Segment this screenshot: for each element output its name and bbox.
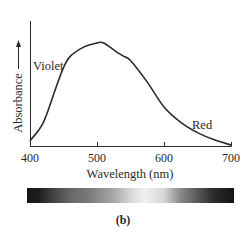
spectrum-color-bar [27, 188, 234, 203]
x-axis-label: Wavelength (nm) [87, 167, 174, 181]
violet-label: Violet [33, 59, 64, 73]
red-label: Red [192, 118, 213, 132]
x-tick-label-500: 500 [88, 151, 106, 165]
figure-caption: (b) [0, 213, 246, 228]
x-tick-label-400: 400 [21, 151, 39, 165]
y-axis-arrow-icon [16, 40, 21, 69]
x-tick-label-700: 700 [222, 151, 240, 165]
y-axis-label: Absorbance [11, 73, 25, 133]
x-ticks [98, 142, 232, 147]
x-tick-label-600: 600 [155, 151, 173, 165]
